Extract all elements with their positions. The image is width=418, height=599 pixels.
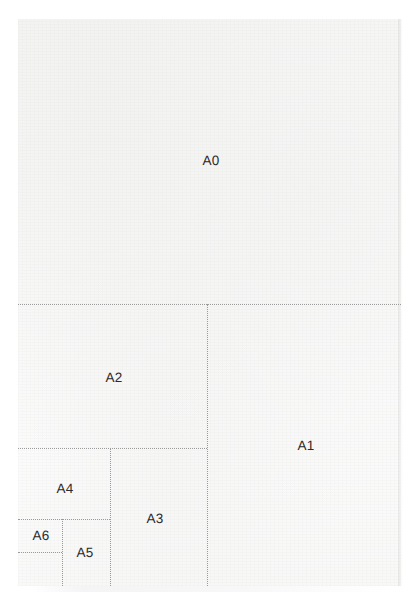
fold-line-a1-a2-split <box>207 304 208 586</box>
fold-line-a5-a6-split <box>62 519 63 586</box>
fold-line-a2-a4-split <box>18 448 207 449</box>
paper-sheet-background <box>18 19 401 586</box>
fold-line-a4-a6-split <box>18 519 110 520</box>
scan-edge-smudge <box>30 586 390 592</box>
region-label-a3: A3 <box>147 512 164 526</box>
paper-size-diagram: A0 A1 A2 A3 A4 A5 A6 <box>0 0 418 599</box>
fold-line-a0-a1-split <box>18 304 401 305</box>
region-label-a4: A4 <box>57 482 74 496</box>
region-label-a5: A5 <box>77 546 94 560</box>
region-label-a2: A2 <box>106 371 123 385</box>
region-label-a6: A6 <box>33 529 50 543</box>
fold-line-a6-bottom <box>18 552 62 553</box>
region-label-a1: A1 <box>298 439 315 453</box>
fold-line-a3-a4-split <box>110 448 111 586</box>
region-label-a0: A0 <box>203 154 220 168</box>
